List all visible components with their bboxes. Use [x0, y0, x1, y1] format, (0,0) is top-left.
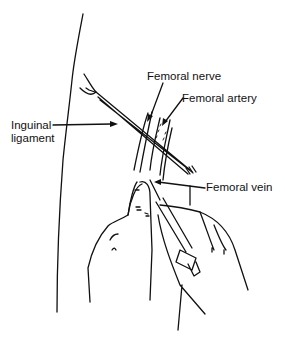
inguinal-label-line1: Inguinal	[11, 119, 51, 132]
artery-pointer	[165, 98, 183, 122]
femoral-nerve-label: Femoral nerve	[147, 70, 221, 83]
femoral-artery-label: Femoral artery	[182, 92, 257, 105]
inguinal-pointer	[53, 124, 112, 125]
nerve-pointer	[150, 83, 163, 118]
line-drawing	[0, 0, 285, 340]
femoral-vein-label: Femoral vein	[206, 181, 272, 194]
illustration: Femoral nerve Femoral artery Inguinal li…	[0, 0, 285, 340]
left-hand	[88, 182, 152, 302]
femoral-nerve	[134, 112, 152, 172]
body-outline	[57, 14, 83, 312]
vein-pointer	[158, 182, 205, 188]
right-hand	[158, 205, 248, 330]
syringe	[150, 180, 200, 276]
inguinal-label-line2: ligament	[11, 132, 54, 145]
